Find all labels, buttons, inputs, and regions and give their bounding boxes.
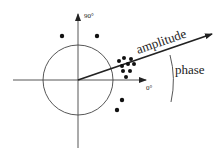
phase-label: phase	[175, 62, 205, 77]
phasor-diagram: 90° 0° amplitude phase	[0, 0, 222, 153]
phase-arc	[170, 55, 173, 102]
x-axis-label: 0°	[146, 84, 153, 92]
y-axis-label: 90°	[84, 12, 94, 20]
